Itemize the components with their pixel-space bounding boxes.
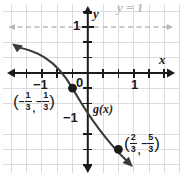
graph-figure: y x y = 1 0 −1 1 1 −1 g(x) ( − 1 3 , − 1… (0, 0, 182, 177)
fraction-y-left: 1 3 (42, 91, 49, 112)
point-right (114, 145, 123, 154)
y-tick-label-neg1: −1 (63, 111, 78, 124)
y-axis (82, 6, 95, 173)
asymptote-label: y = 1 (117, 1, 143, 14)
comma-left: , (32, 104, 37, 114)
x-tick-label-pos1: 1 (131, 78, 138, 91)
fraction-x-right: 2 3 (130, 133, 137, 154)
paren-close-right: ) (154, 135, 160, 152)
fraction-x-left: 1 3 (25, 91, 32, 112)
comma-right: , (137, 146, 142, 156)
point-label-right: ( 2 3 , − 5 3 ) (124, 133, 160, 154)
point-label-left: ( − 1 3 , − 1 3 ) (13, 91, 55, 112)
function-label: g(x) (93, 103, 113, 115)
fraction-y-right: 5 3 (147, 133, 154, 154)
paren-close-left: ) (49, 93, 55, 110)
x-axis-label: x (159, 53, 166, 66)
origin-label: 0 (76, 76, 83, 89)
y-tick-label-pos1: 1 (73, 19, 80, 32)
y-axis-label: y (93, 7, 99, 20)
